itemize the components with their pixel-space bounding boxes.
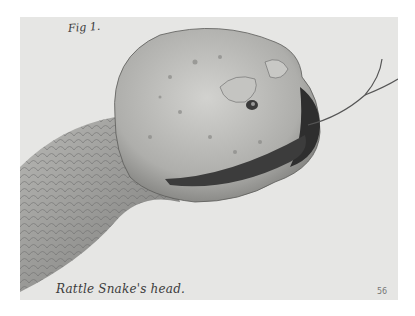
page-number: 56	[377, 287, 387, 296]
illustration-plate: Fig 1. Rattle Snake's head. 56	[20, 17, 398, 300]
caption: Rattle Snake's head.	[56, 282, 185, 296]
figure-label: Fig 1.	[68, 20, 101, 35]
snake-head-illustration	[20, 17, 398, 300]
